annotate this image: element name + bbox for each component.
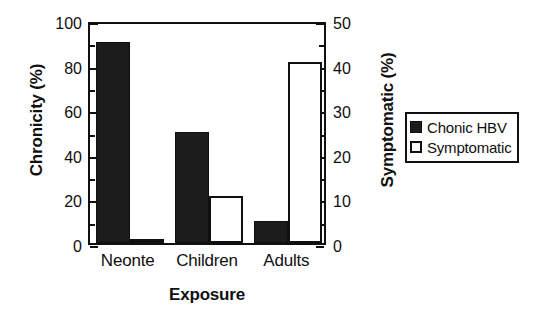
x-axis-title: Exposure <box>88 285 326 305</box>
tick-label-right-0: 0 <box>333 239 377 255</box>
tick-minor-left-10 <box>90 224 95 226</box>
tick-minor-left-90 <box>90 45 95 47</box>
tick-label-left-80: 80 <box>38 61 82 77</box>
tick-label-left-20: 20 <box>38 194 82 210</box>
category-label-children: Children <box>167 251 246 271</box>
tick-right-50 <box>316 23 324 25</box>
chart-legend: Chonic HBVSymptomatic <box>405 112 519 163</box>
tick-label-right-40: 40 <box>333 61 377 77</box>
category-label-adults: Adults <box>247 251 326 271</box>
bar-adults-chonic-hbv <box>254 221 288 243</box>
tick-right-0 <box>316 246 324 248</box>
tick-left-100 <box>90 23 98 25</box>
tick-minor-left-50 <box>90 135 95 137</box>
bar-children-symptomatic <box>209 196 243 243</box>
tick-minor-left-30 <box>90 179 95 181</box>
tick-label-left-60: 60 <box>38 105 82 121</box>
tick-label-left-100: 100 <box>38 16 82 32</box>
tick-label-right-50: 50 <box>333 16 377 32</box>
tick-minor-left-70 <box>90 90 95 92</box>
category-label-neonte: Neonte <box>88 251 167 271</box>
tick-label-right-20: 20 <box>333 150 377 166</box>
tick-label-left-40: 40 <box>38 150 82 166</box>
bar-adults-symptomatic <box>288 62 322 243</box>
legend-label: Chonic HBV <box>427 119 507 136</box>
y-axis-right-title: Symptomatic (%) <box>378 20 398 220</box>
chart-figure: Chronicity (%) Symptomatic (%) Exposure … <box>0 0 538 319</box>
tick-label-right-30: 30 <box>333 105 377 121</box>
tick-left-0 <box>90 246 98 248</box>
tick-minor-right-45 <box>319 45 324 47</box>
legend-swatch-filled-icon <box>410 121 422 133</box>
bar-neonte-symptomatic <box>130 239 164 243</box>
legend-item-chonic-hbv: Chonic HBV <box>410 117 512 137</box>
legend-label: Symptomatic <box>427 139 512 156</box>
tick-label-right-10: 10 <box>333 194 377 210</box>
plot-area: 02040608010001020304050 <box>88 22 326 245</box>
bar-children-chonic-hbv <box>175 132 209 244</box>
tick-label-left-0: 0 <box>38 239 82 255</box>
legend-item-symptomatic: Symptomatic <box>410 137 512 157</box>
legend-swatch-hollow-icon <box>410 141 422 153</box>
bar-neonte-chonic-hbv <box>96 42 130 243</box>
